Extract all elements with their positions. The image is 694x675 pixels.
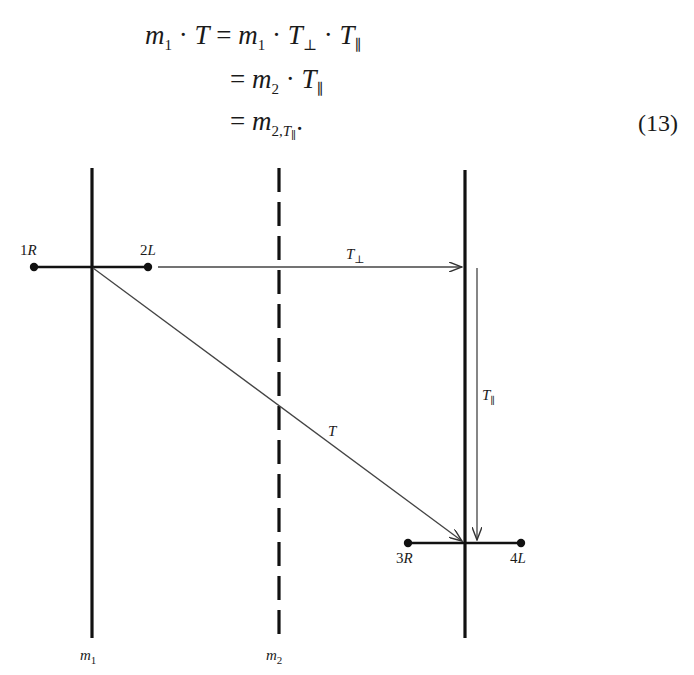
label-t-parallel: T∥ xyxy=(482,387,495,406)
label-t-diagonal: T xyxy=(328,423,338,439)
label-2L: 2L xyxy=(140,242,156,258)
label-m1: m1 xyxy=(80,647,96,666)
label-t-perp: T⊥ xyxy=(346,246,365,265)
label-m2: m2 xyxy=(266,647,282,666)
point-3R xyxy=(404,539,412,547)
mirror-diagram: 1R 2L 3R 4L T⊥ T∥ T m1 m2 xyxy=(0,0,694,675)
point-1R xyxy=(30,263,38,271)
label-4L: 4L xyxy=(510,550,526,566)
point-2L xyxy=(144,263,152,271)
label-1R: 1R xyxy=(20,242,37,258)
label-3R: 3R xyxy=(396,550,413,566)
point-4L xyxy=(517,539,525,547)
